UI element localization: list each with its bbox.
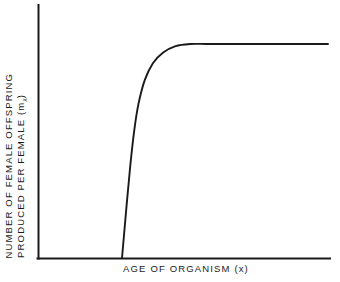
y-axis-title-line-1: NUMBER OF FEMALE OFFSPRING	[4, 72, 14, 258]
chart-plot	[0, 0, 340, 282]
x-axis-title: AGE OF ORGANISM (x)	[0, 264, 340, 274]
y-axis-title-subscript: x	[21, 98, 28, 102]
y-axis-title-prefix: PRODUCED PER FEMALE (m	[15, 102, 26, 258]
fecundity-curve	[122, 44, 328, 258]
y-axis-title-line-2: PRODUCED PER FEMALE (mx)	[16, 94, 28, 258]
y-axis-title-suffix: )	[15, 94, 26, 98]
figure-canvas: AGE OF ORGANISM (x) NUMBER OF FEMALE OFF…	[0, 0, 340, 282]
